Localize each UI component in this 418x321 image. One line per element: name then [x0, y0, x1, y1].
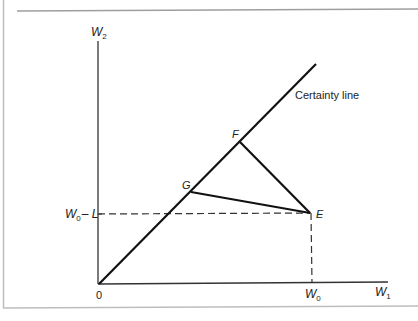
point-e-label: E: [316, 208, 324, 220]
wealth-diagram: W2 W1 0 W0 W0– L Certainty line F G E: [0, 0, 418, 321]
origin-label: 0: [96, 289, 102, 301]
x-axis-label: W1: [375, 285, 391, 301]
frame-top-rule: [17, 9, 418, 11]
certainty-line-label: Certainty line: [295, 89, 359, 101]
frame-bottom-border: [3, 306, 418, 308]
dashed-vertical-w0: [311, 213, 312, 283]
x-tick-w0-label: W0: [305, 287, 321, 303]
x-axis: [98, 282, 388, 284]
y-axis-label: W2: [91, 25, 107, 41]
dashed-horizontal-w0-minus-l: [98, 213, 311, 214]
certainty-line: [99, 64, 316, 284]
point-g-label: G: [182, 179, 191, 191]
point-f-label: F: [232, 128, 240, 140]
y-tick-w0-minus-l-label: W0– L: [65, 207, 98, 223]
